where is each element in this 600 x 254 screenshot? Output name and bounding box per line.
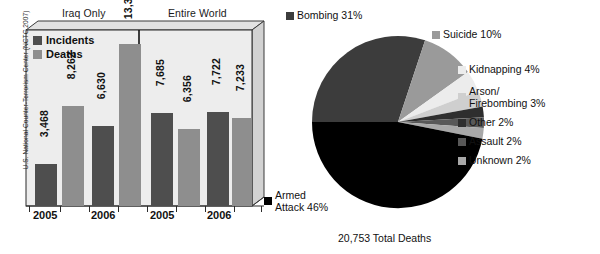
axis-tick — [205, 206, 206, 212]
pie-swatch-other — [458, 119, 466, 127]
pie-label-other-text: Other 2% — [469, 116, 513, 128]
bar-iraq-2005-deaths — [62, 106, 84, 206]
bar-value-world-2006-deaths: 7,233 — [234, 64, 246, 91]
axis-label-world-2006: 2006 — [207, 209, 231, 221]
pie-label-armed-line2: Attack 46% — [275, 201, 328, 213]
pie-label-suicide: Suicide 10% — [432, 29, 501, 41]
bar-world-2005-deaths — [178, 129, 200, 206]
bar-value-world-2005-deaths: 6,356 — [181, 75, 193, 102]
pie-swatch-assault — [458, 138, 466, 146]
legend-swatch-incidents — [33, 36, 42, 45]
pie-label-arson-line1: Arson/ — [469, 85, 499, 97]
pie-chart: Bombing 31% Suicide 10% Kidnapping 4% Ar… — [262, 0, 600, 254]
pie-label-armed-attack-text: Armed Attack 46% — [275, 190, 328, 213]
pie-label-arson-line2: Firebombing 3% — [469, 97, 545, 109]
pie-label-armed-line1: Armed — [275, 189, 306, 201]
bar-value-world-2005-incidents: 7,685 — [154, 59, 166, 86]
bar-value-iraq-2006-deaths: 13,340 — [122, 0, 134, 19]
pie-label-assault-text: Assault 2% — [469, 135, 522, 147]
bar-iraq-2006-deaths — [119, 44, 141, 206]
bar-value-world-2006-incidents: 7,722 — [210, 58, 222, 85]
pie-slices — [262, 0, 600, 254]
pie-label-bombing-text: Bombing 31% — [297, 9, 362, 21]
axis-tick — [147, 206, 148, 212]
legend-label-incidents: Incidents — [46, 34, 94, 46]
pie-total-deaths-caption: 20,753 Total Deaths — [338, 232, 431, 244]
pie-swatch-bombing — [286, 12, 294, 20]
pie-label-bombing: Bombing 31% — [286, 10, 362, 22]
axis-label-world-2005: 2005 — [150, 209, 174, 221]
pie-swatch-arson-firebombing — [458, 93, 466, 101]
axis-label-iraq-2006: 2006 — [91, 209, 115, 221]
pie-label-unknown-text: Unknown 2% — [469, 154, 531, 166]
legend-item-incidents: Incidents — [33, 34, 94, 46]
bar-chart: Iraq Only Entire World Incidents Deaths … — [0, 0, 290, 254]
pie-label-armed-attack: Armed Attack 46% — [264, 190, 328, 213]
axis-tick — [176, 206, 177, 212]
pie-label-kidnapping-text: Kidnapping 4% — [469, 63, 540, 75]
bar-world-2006-incidents — [207, 112, 229, 206]
bar-iraq-2005-incidents — [35, 164, 57, 206]
axis-label-iraq-2005: 2005 — [33, 209, 57, 221]
pie-label-other: Other 2% — [458, 117, 513, 129]
legend-swatch-deaths — [33, 50, 42, 59]
bar-value-iraq-2005-deaths: 8,262 — [65, 52, 77, 79]
pie-swatch-kidnapping — [458, 66, 466, 74]
pie-swatch-suicide — [432, 31, 440, 39]
bar-world-2006-deaths — [232, 118, 252, 206]
axis-tick — [234, 206, 235, 212]
bar-chart-legend: Incidents Deaths — [33, 34, 94, 62]
axis-tick — [118, 206, 119, 212]
pie-label-unknown: Unknown 2% — [458, 155, 531, 167]
axis-tick — [89, 206, 90, 212]
pie-swatch-unknown — [458, 157, 466, 165]
pie-label-kidnapping: Kidnapping 4% — [458, 64, 540, 76]
pie-label-assault: Assault 2% — [458, 136, 522, 148]
bar-iraq-2006-incidents — [92, 126, 114, 206]
bar-value-iraq-2006-incidents: 6,630 — [95, 72, 107, 99]
bar-world-2005-incidents — [151, 113, 173, 206]
axis-tick — [60, 206, 61, 212]
axis-tick — [29, 206, 30, 212]
pie-label-suicide-text: Suicide 10% — [443, 28, 501, 40]
bar-value-iraq-2005-incidents: 3,468 — [38, 110, 50, 137]
pie-label-arson-firebombing: Arson/ Firebombing 3% — [458, 86, 545, 109]
pie-label-arson-firebombing-text: Arson/ Firebombing 3% — [469, 86, 545, 109]
legend-item-deaths: Deaths — [33, 48, 94, 60]
pie-swatch-armed-attack — [264, 197, 272, 205]
source-credit: U.S. National Counter-Terrorism Center (… — [22, 30, 29, 170]
